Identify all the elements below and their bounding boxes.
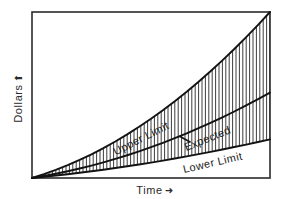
x-axis-label: Time➜ xyxy=(136,184,173,196)
dollars-vs-time-band-chart: Upper Limit Expected Lower Limit xyxy=(0,0,286,199)
y-axis-label: Dollars⬆ xyxy=(12,58,24,138)
y-axis-label-group: Dollars⬆ xyxy=(0,52,34,148)
up-arrow-icon: ⬆ xyxy=(13,73,24,84)
y-axis-label-text: Dollars xyxy=(12,84,24,122)
x-axis-label-group: Time➜ xyxy=(96,180,214,198)
x-axis-label-text: Time xyxy=(136,184,162,196)
right-arrow-icon: ➜ xyxy=(163,185,174,196)
